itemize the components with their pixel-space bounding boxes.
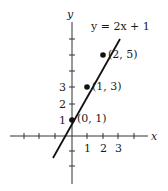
point-1-3 xyxy=(84,84,90,90)
x-tick-label-1: 1 xyxy=(84,142,91,155)
x-axis-label: x xyxy=(151,130,158,143)
point-label-0-1: (0, 1) xyxy=(77,112,107,125)
point-2-5 xyxy=(100,52,106,58)
line-graph: y x y = 2x + 1 1 2 3 1 2 3 (0, 1) (1, 3)… xyxy=(0,0,168,191)
x-tick-label-2: 2 xyxy=(100,142,107,155)
x-tick-label-3: 3 xyxy=(115,142,122,155)
point-label-1-3: (1, 3) xyxy=(92,80,122,93)
y-tick-label-2: 2 xyxy=(59,98,66,111)
y-tick-label-1: 1 xyxy=(59,114,66,127)
equation-label: y = 2x + 1 xyxy=(90,20,150,33)
point-0-1 xyxy=(69,117,75,123)
point-label-2-5: (2, 5) xyxy=(108,48,138,61)
y-tick-label-3: 3 xyxy=(59,81,66,94)
y-axis-label: y xyxy=(66,8,74,21)
